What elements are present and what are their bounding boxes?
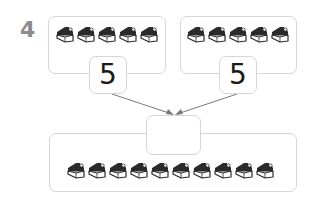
- cake-slice-icon: [150, 160, 170, 180]
- cake-slice-icon: [192, 160, 212, 180]
- cake-slice-icon: [97, 24, 117, 44]
- cake-slice-icon: [207, 24, 227, 44]
- cake-slice-icon: [213, 160, 233, 180]
- left-count-box: 5: [89, 56, 127, 94]
- cake-slice-icon: [186, 24, 206, 44]
- cake-slice-icon: [129, 160, 149, 180]
- cake-slice-icon: [139, 24, 159, 44]
- cake-slice-icon: [76, 24, 96, 44]
- problem-number: 4: [20, 18, 35, 42]
- cake-slice-icon: [249, 24, 269, 44]
- cake-slice-icon: [87, 160, 107, 180]
- total-cake-row: [66, 160, 275, 180]
- cake-slice-icon: [108, 160, 128, 180]
- cake-slice-icon: [171, 160, 191, 180]
- cake-slice-icon: [55, 24, 75, 44]
- right-cake-row: [186, 24, 290, 44]
- cake-slice-icon: [118, 24, 138, 44]
- cake-slice-icon: [66, 160, 86, 180]
- cake-slice-icon: [270, 24, 290, 44]
- cake-slice-icon: [234, 160, 254, 180]
- cake-slice-icon: [255, 160, 275, 180]
- left-cake-row: [55, 24, 159, 44]
- answer-box[interactable]: [146, 115, 201, 155]
- cake-slice-icon: [228, 24, 248, 44]
- right-count-box: 5: [219, 56, 257, 94]
